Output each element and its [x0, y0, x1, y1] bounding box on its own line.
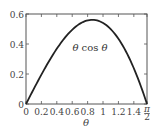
x-axis-label: θ — [83, 117, 89, 128]
svg-text:0: 0 — [23, 107, 29, 117]
chart: 00.20.40.60.811.21.4π2 00.20.40.6 θ cos … — [0, 0, 160, 133]
theta-cos-theta-curve — [26, 20, 147, 104]
svg-text:1.4: 1.4 — [127, 107, 142, 117]
svg-text:1.2: 1.2 — [111, 107, 125, 117]
svg-text:0.4: 0.4 — [10, 40, 25, 50]
svg-text:0.6: 0.6 — [10, 10, 25, 20]
svg-text:0: 0 — [18, 100, 24, 110]
svg-text:0.2: 0.2 — [10, 70, 24, 80]
svg-text:0.2: 0.2 — [34, 107, 48, 117]
x-axis-ticks: 00.20.40.60.811.21.4π2 — [23, 14, 151, 122]
curve-label: θ cos θ — [72, 42, 107, 53]
svg-text:1: 1 — [100, 107, 106, 117]
svg-text:0.8: 0.8 — [80, 107, 95, 117]
svg-text:0.4: 0.4 — [50, 107, 65, 117]
svg-text:0.6: 0.6 — [65, 107, 80, 117]
svg-text:2: 2 — [144, 112, 150, 122]
